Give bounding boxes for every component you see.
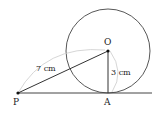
tangent-diagram: O P A 7 cm 3 cm bbox=[0, 0, 161, 117]
label-PO-length: 7 cm bbox=[36, 64, 56, 73]
label-O: O bbox=[104, 37, 111, 47]
point-O bbox=[106, 49, 109, 52]
label-P: P bbox=[13, 97, 19, 107]
point-P bbox=[16, 91, 19, 94]
segment-PO bbox=[18, 51, 108, 93]
label-OA-length: 3 cm bbox=[111, 68, 131, 77]
label-A: A bbox=[103, 97, 111, 107]
